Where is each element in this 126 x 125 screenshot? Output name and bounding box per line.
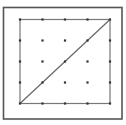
peg-dot bbox=[19, 39, 21, 41]
peg-dot bbox=[41, 102, 43, 104]
peg-dot bbox=[19, 102, 21, 104]
peg-dot bbox=[109, 39, 111, 41]
peg-dot bbox=[41, 18, 43, 20]
peg-dot bbox=[109, 81, 111, 83]
peg-dot bbox=[86, 81, 88, 83]
geoboard-diagram bbox=[0, 0, 126, 125]
peg-dot bbox=[41, 60, 43, 62]
peg-dot bbox=[19, 60, 21, 62]
peg-dot bbox=[86, 60, 88, 62]
peg-dot bbox=[64, 81, 66, 83]
peg-dot bbox=[41, 81, 43, 83]
peg-dot bbox=[64, 39, 66, 41]
peg-dot bbox=[109, 60, 111, 62]
peg-dot bbox=[64, 18, 66, 20]
peg-dot bbox=[109, 102, 111, 104]
peg-dot bbox=[86, 18, 88, 20]
peg-dot bbox=[86, 102, 88, 104]
peg-dot bbox=[19, 81, 21, 83]
peg-dot bbox=[64, 60, 66, 62]
peg-dot bbox=[19, 18, 21, 20]
peg-dot bbox=[64, 102, 66, 104]
peg-dot bbox=[86, 39, 88, 41]
geoboard-svg bbox=[0, 0, 126, 125]
peg-dot bbox=[109, 18, 111, 20]
peg-dot bbox=[41, 39, 43, 41]
